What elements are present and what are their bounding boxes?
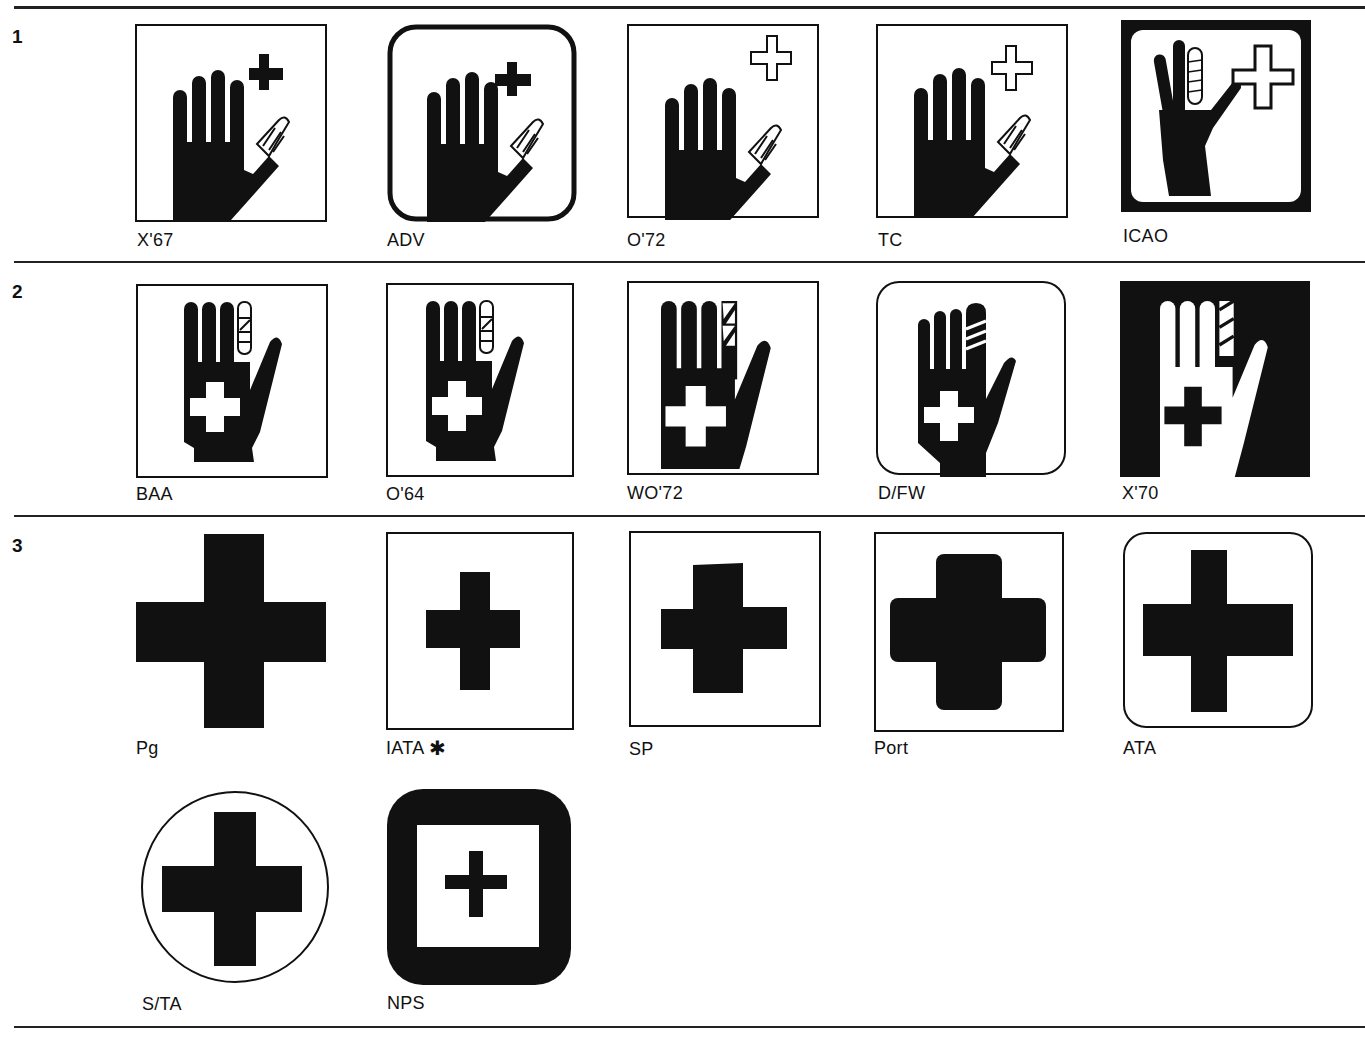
symbol-port: Port [874,532,1064,732]
row-number-2: 2 [12,281,23,303]
cross-icon [136,534,326,730]
symbol-adv: ADV [387,24,577,224]
symbol-baa: BAA [136,284,328,480]
symbol-label: Pg [136,738,159,759]
symbol-dfw: D/FW [876,281,1066,477]
cross-icon [387,789,571,985]
hand-palm-cross-inverted-icon [1120,281,1310,477]
hand-palm-cross-icon [136,284,328,480]
symbol-label: IATA ✱ [386,736,446,760]
symbol-ata: ATA [1123,532,1313,728]
hand-bandage-icon [387,24,577,224]
symbol-icao: ICAO [1121,20,1311,214]
symbol-wo72: WO'72 [627,281,819,477]
symbol-label: WO'72 [627,483,683,504]
cross-rounded-icon [874,532,1064,732]
symbol-label: O'72 [627,230,666,251]
hand-palm-cross-icon [876,281,1066,477]
asterisk-icon: ✱ [429,737,446,759]
cross-icon [1123,532,1313,728]
symbol-nps: NPS [387,789,571,985]
symbol-label: BAA [136,484,173,505]
symbol-label: ATA [1123,738,1156,759]
hand-bandage-icon [876,24,1068,220]
cross-icon [629,531,821,727]
hand-palm-cross-icon [386,283,574,479]
symbol-label: D/FW [878,483,925,504]
row-divider-1 [14,261,1365,263]
symbol-pg: Pg [136,534,326,730]
symbol-x67: X'67 [135,24,327,224]
symbol-label: O'64 [386,484,425,505]
hand-bandage-icon [1121,20,1311,214]
symbol-label: SP [629,739,654,760]
symbol-x70: X'70 [1120,281,1310,477]
row-number-1: 1 [12,26,23,48]
hand-palm-cross-icon [627,281,819,477]
symbol-sp: SP [629,531,821,727]
symbol-label: Port [874,738,908,759]
symbol-label: X'70 [1122,483,1159,504]
row-number-3: 3 [12,535,23,557]
hand-bandage-icon [627,24,819,220]
cross-icon [140,790,330,986]
symbol-label: X'67 [137,230,174,251]
symbol-label: TC [878,230,903,251]
symbol-label: S/TA [142,994,182,1015]
symbol-o72: O'72 [627,24,819,220]
symbol-label: NPS [387,993,425,1014]
bottom-rule [14,1026,1365,1028]
symbol-tc: TC [876,24,1068,220]
cross-icon [386,532,574,732]
symbol-iata: IATA ✱ [386,532,574,732]
hand-bandage-icon [135,24,327,224]
symbol-label: ADV [387,230,425,251]
symbol-sta: S/TA [140,790,330,986]
row-divider-2 [14,515,1365,517]
top-rule [14,6,1365,9]
symbol-o64: O'64 [386,283,574,479]
symbol-label: ICAO [1123,226,1168,247]
